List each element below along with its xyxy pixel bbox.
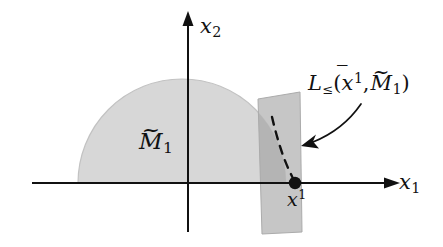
sublevel-arg1-superscript: 1 — [354, 70, 363, 86]
figure-canvas: x2 x1 M ~ 1 x ̅ 1 L≤( x ̅ 1, M ~ 1) — [0, 0, 443, 247]
sublevel-arg2-base: M — [370, 73, 392, 94]
axis-x2-label-base: x — [200, 14, 212, 38]
axis-x1-arrowhead — [384, 178, 400, 189]
region-label-subscript: 1 — [163, 138, 173, 157]
region-half-disc — [78, 79, 286, 183]
sublevel-arg2-accented-base: M ~ — [370, 73, 392, 94]
sublevel-name-subscript: ≤ — [322, 82, 333, 97]
callout-arrow — [301, 104, 361, 149]
axis-x2-arrowhead — [183, 11, 194, 26]
sublevel-close-paren: ) — [402, 71, 410, 95]
diagram-svg — [0, 0, 443, 247]
sublevel-open-paren: ( — [333, 71, 341, 95]
point-label-base: x — [287, 190, 298, 209]
axis-x1-label: x1 — [399, 172, 420, 195]
point-label-accented-base: x ̅ — [287, 190, 298, 209]
point-label-superscript: 1 — [298, 187, 306, 202]
region-sublevel-strip — [258, 92, 302, 234]
point-label: x ̅ 1 — [287, 189, 306, 209]
sublevel-arg1-base: x — [342, 73, 354, 94]
axis-x2-label-subscript: 2 — [212, 24, 221, 40]
sublevel-arg2-subscript: 1 — [392, 81, 401, 97]
region-half-disc-label: M ~ 1 — [139, 130, 173, 156]
sublevel-name-base: L — [308, 71, 322, 95]
sublevel-set-label: L≤( x ̅ 1, M ~ 1) — [308, 72, 410, 96]
axis-x1-label-base: x — [399, 170, 411, 194]
region-label-base: M — [139, 130, 163, 153]
axis-x2-label: x2 — [200, 16, 221, 39]
region-label-accented-base: M ~ — [139, 130, 163, 153]
sublevel-arg1-accented-base: x ̅ — [342, 73, 354, 94]
axis-x1-label-subscript: 1 — [411, 180, 420, 196]
